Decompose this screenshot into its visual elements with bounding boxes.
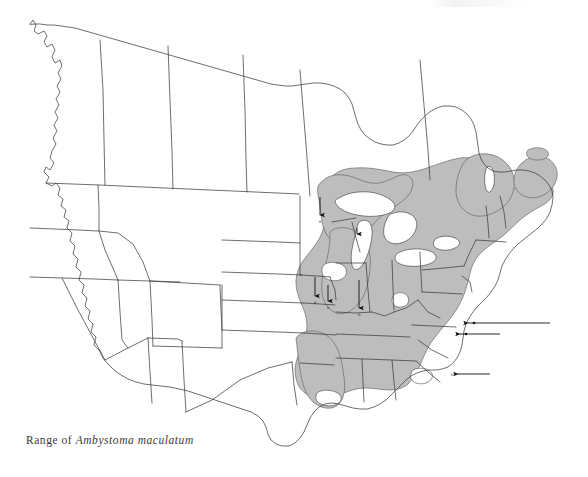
border-or-id <box>99 231 118 280</box>
marker-dot <box>465 333 468 336</box>
border-bc-alberta <box>100 40 105 185</box>
border-mt-wy <box>150 281 220 285</box>
lake-champlain-hole <box>485 166 495 192</box>
border-ut-id-wy <box>118 280 180 282</box>
border-manitoba-ontario <box>300 70 310 196</box>
lake-erie-hole <box>395 249 436 266</box>
unshaded-pocket-south-georgia <box>411 368 433 384</box>
border-ks-ok <box>222 330 304 333</box>
caption-species-name: Ambystoma maculatum <box>76 434 194 446</box>
unshaded-pocket-ohio <box>392 293 409 308</box>
border-nd-sd <box>222 240 300 243</box>
range-polygon-pei <box>527 148 549 160</box>
border-nm-tx-ok <box>182 341 186 412</box>
marker-x-label: × <box>450 371 454 378</box>
border-id-mt <box>99 231 150 281</box>
border-or-ca-nv <box>30 277 118 280</box>
border-nv-ut <box>118 280 128 348</box>
border-alberta-saskatchewan <box>168 46 173 189</box>
marker-record-north-carolina-lower <box>460 333 500 336</box>
border-co-nm <box>153 346 222 348</box>
border-wa-or <box>30 228 98 231</box>
border-ca-nv <box>62 278 105 360</box>
border-wy-co <box>150 281 153 346</box>
border-wa-id <box>98 185 99 231</box>
caption-prefix: Range of <box>26 434 76 446</box>
figure-caption: Range of Ambystoma maculatum <box>26 434 194 446</box>
marker-x-label: × <box>357 311 361 318</box>
border-ne-ks <box>222 300 303 303</box>
marker-x-label: × <box>318 218 322 225</box>
lake-ontario-hole <box>433 236 459 250</box>
north-america-map: × × × × <box>0 0 588 477</box>
marker-record-north-carolina-upper <box>468 322 550 325</box>
border-49th-parallel <box>46 183 299 194</box>
border-sd-ne <box>222 272 302 275</box>
range-map-figure: × × × × <box>0 0 588 477</box>
border-nv-az-ut <box>105 338 148 360</box>
marker-dot <box>473 322 476 325</box>
range-shading-layer <box>295 148 557 408</box>
marker-x-label: × <box>326 304 330 311</box>
marker-x-label: × <box>313 299 317 306</box>
unshaded-pocket-illinois <box>322 262 347 280</box>
border-az-nm <box>148 338 152 403</box>
marker-record-coastal-georgia: × <box>450 371 490 378</box>
border-ok-tx <box>186 362 292 412</box>
border-saskatchewan-manitoba <box>243 55 247 192</box>
